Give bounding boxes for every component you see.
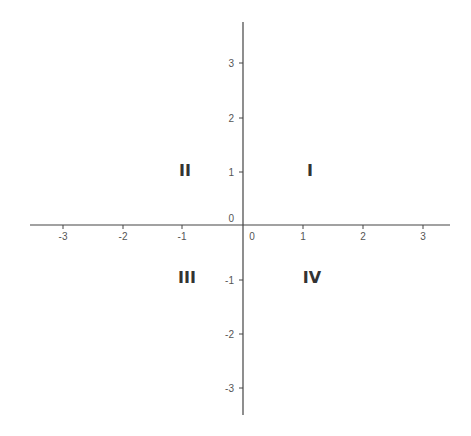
quadrant-labels: I II III IV [178,161,322,287]
coordinate-plane: -3 -2 -1 0 1 2 3 3 2 1 0 -1 -2 -3 I II I… [0,0,471,436]
y-tick-label: -1 [225,275,234,286]
y-tick-label-origin: 0 [228,213,234,224]
y-tick-label: 1 [228,167,234,178]
x-tick-label: 1 [300,231,306,242]
x-tick-label: -1 [178,231,187,242]
y-tick-label: 2 [228,113,234,124]
quadrant-1-label: I [307,161,313,180]
x-tick-label: -3 [59,231,68,242]
y-tick-label: -2 [225,329,234,340]
x-tick-label-origin: 0 [249,231,255,242]
quadrant-3-label: III [178,268,196,287]
quadrant-2-label: II [179,161,191,180]
x-tick-label: 3 [420,231,426,242]
x-tick-label: 2 [360,231,366,242]
x-axis-labels: -3 -2 -1 0 1 2 3 [59,231,427,242]
y-tick-label: 3 [228,58,234,69]
quadrant-4-label: IV [303,268,322,287]
y-tick-label: -3 [225,383,234,394]
x-tick-label: -2 [119,231,128,242]
y-axis-labels: 3 2 1 0 -1 -2 -3 [225,58,234,394]
